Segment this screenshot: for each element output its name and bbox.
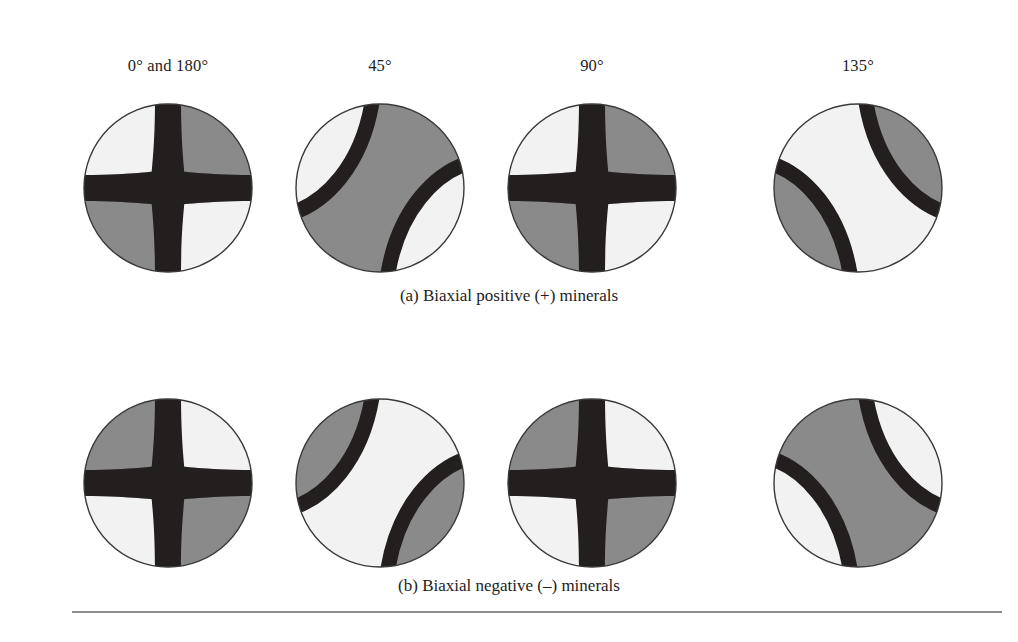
interference-figure-b-0180	[78, 393, 258, 573]
interference-figure-row-b	[48, 393, 970, 593]
interference-figure-b-90	[502, 393, 682, 573]
row-caption-b: (b) Biaxial negative (–) minerals	[48, 576, 970, 596]
column-header-90: 90°	[492, 56, 692, 76]
column-header-45: 45°	[280, 56, 480, 76]
interference-figure-row-a	[48, 98, 970, 298]
interference-figure-a-135	[768, 98, 948, 278]
interference-figure-b-45	[290, 393, 470, 573]
interference-figure-b-135	[768, 393, 948, 573]
figure-frame: 0° and 180° 45° 90° 135° (a) Biaxial pos…	[48, 38, 970, 592]
column-header-135: 135°	[758, 56, 958, 76]
column-header-0: 0° and 180°	[68, 56, 268, 76]
interference-figure-a-90	[502, 98, 682, 278]
column-header-row: 0° and 180° 45° 90° 135°	[48, 56, 970, 84]
interference-figure-a-45	[290, 98, 470, 278]
page-rule	[72, 611, 1002, 613]
interference-figure-a-0180	[78, 98, 258, 278]
row-caption-a: (a) Biaxial positive (+) minerals	[48, 286, 970, 306]
